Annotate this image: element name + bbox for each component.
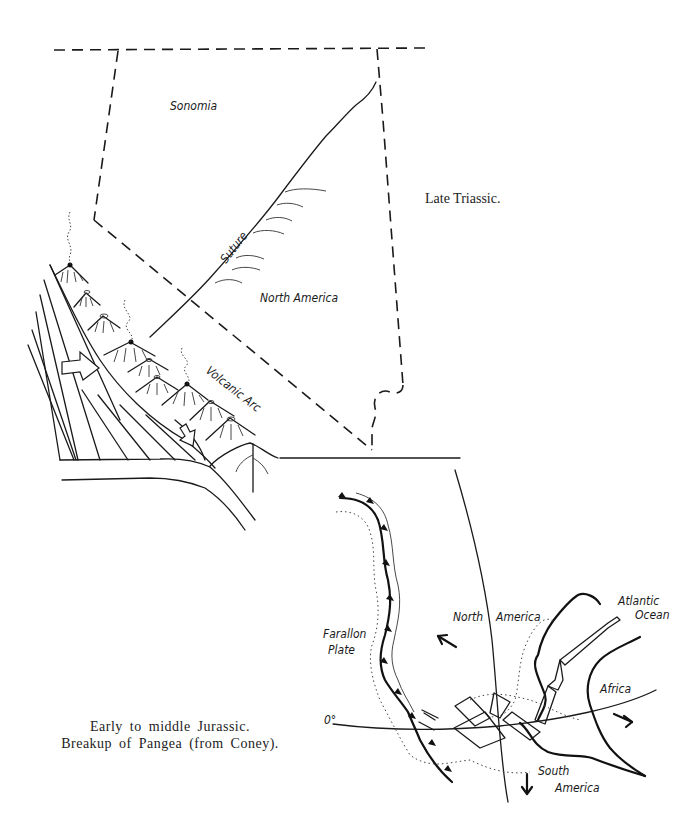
subducting-slab-top bbox=[210, 467, 255, 520]
jurassic-map: Farallon Plate North America Atlantic Oc… bbox=[323, 470, 670, 802]
label-ocean: Ocean bbox=[635, 608, 670, 622]
north-america-shelf-dotted bbox=[485, 619, 553, 717]
gulf-dotted bbox=[470, 694, 580, 720]
north-america-east-boundary bbox=[377, 49, 403, 385]
subduction-arrow bbox=[180, 424, 195, 446]
northern-boundary-dashed bbox=[54, 48, 425, 50]
late-triassic-title: Late Triassic. bbox=[425, 191, 500, 206]
late-triassic-map: Sonomia Suture North America Volcanic Ar… bbox=[28, 48, 500, 530]
africa-coast bbox=[588, 637, 645, 776]
north-america-east-coast-top bbox=[553, 594, 600, 621]
label-equator: 0° bbox=[324, 713, 336, 727]
label-north: North bbox=[453, 610, 483, 624]
label-suture: Suture bbox=[217, 229, 250, 266]
suture-hachures bbox=[215, 189, 326, 283]
label-plate: Plate bbox=[328, 643, 355, 657]
coastline-wiggle bbox=[372, 385, 403, 450]
north-america-east-coast bbox=[535, 621, 553, 720]
label-south-america: America bbox=[554, 781, 600, 795]
label-sonomia: Sonomia bbox=[170, 99, 217, 113]
subducting-slab-bottom bbox=[62, 478, 245, 530]
label-north-america: North America bbox=[260, 291, 338, 305]
caption-line-1: Early to middle Jurassic. bbox=[50, 718, 290, 735]
sonomia-west-boundary bbox=[94, 51, 118, 220]
tectonic-diagram: Sonomia Suture North America Volcanic Ar… bbox=[0, 0, 698, 838]
crust-surface-left bbox=[60, 459, 210, 467]
accretionary-volcano bbox=[210, 443, 278, 466]
caption-line-2: Breakup of Pangea (from Coney). bbox=[50, 735, 290, 752]
label-south: South bbox=[538, 764, 570, 778]
label-farallon: Farallon bbox=[323, 627, 366, 641]
mid-atlantic-ridge bbox=[454, 617, 620, 748]
label-atlantic: Atlantic bbox=[617, 594, 659, 608]
label-volcanic-arc: Volcanic Arc bbox=[203, 363, 264, 415]
label-america: America bbox=[495, 610, 541, 624]
meridian-line bbox=[455, 470, 508, 802]
label-africa: Africa bbox=[599, 682, 631, 696]
jurassic-caption: Early to middle Jurassic. Breakup of Pan… bbox=[50, 718, 290, 752]
